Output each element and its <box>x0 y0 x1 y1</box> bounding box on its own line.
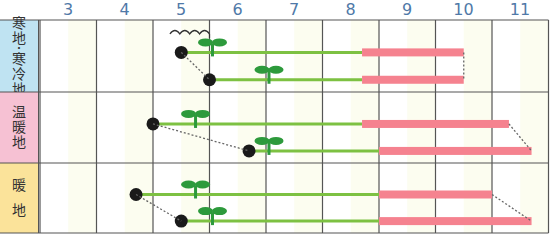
harvest-bar <box>379 147 532 155</box>
cultivation-chart <box>0 0 553 245</box>
harvest-bar <box>379 217 532 225</box>
column-stripe <box>520 20 548 233</box>
harvest-bar <box>362 76 464 84</box>
harvest-bar <box>362 48 464 56</box>
harvest-bar <box>379 191 492 199</box>
column-stripe <box>68 20 96 233</box>
harvest-bar <box>362 120 509 128</box>
